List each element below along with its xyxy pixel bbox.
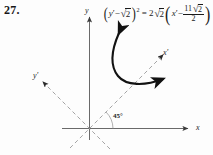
x-prime-axis bbox=[70, 55, 163, 148]
parabola-curve bbox=[112, 33, 163, 84]
y-prime-axis-label: y′ bbox=[33, 71, 38, 80]
y-prime-axis bbox=[43, 82, 110, 149]
y-axis-label: y bbox=[85, 6, 89, 15]
angle-label: 45° bbox=[113, 112, 123, 120]
x-prime-axis-label: x′ bbox=[163, 48, 168, 57]
figure-canvas bbox=[0, 0, 213, 155]
angle-arc bbox=[106, 112, 113, 129]
x-axis-label: x bbox=[196, 123, 200, 132]
math-figure: 27. (y′−√2)2 = 2√2(x′−11√22) y bbox=[0, 0, 213, 155]
